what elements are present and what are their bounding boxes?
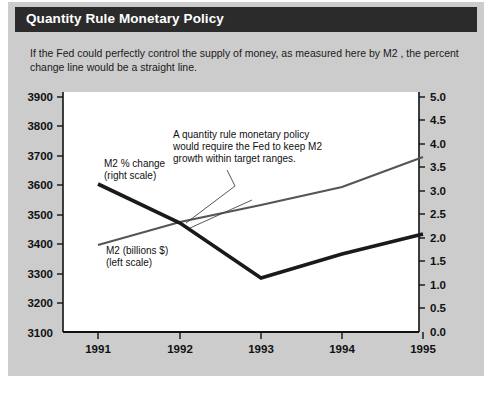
right-tick-label: 1.0 [430,279,446,291]
right-tick-label: 2.5 [430,208,447,220]
x-tick-label: 1992 [167,343,193,355]
x-tick-label: 1995 [410,343,436,355]
figure-panel: Quantity Rule Monetary Policy If the Fed… [8,2,484,376]
left-tick-label: 3300 [27,268,53,280]
x-axis: 1991 1992 1993 1994 1995 [63,332,436,355]
callout-line1: A quantity rule monetary policy [173,129,309,140]
x-tick-label: 1993 [248,343,274,355]
right-tick-label: 3.5 [430,161,447,173]
x-tick-label: 1994 [329,343,355,355]
callout-line3: growth within target ranges. [173,153,296,164]
line-chart: 3900 3800 3700 3600 3500 3400 3300 3200 … [8,2,484,376]
series-label-line1: M2 % change [104,158,166,169]
right-tick-label: 5.0 [430,91,446,103]
left-tick-label: 3400 [27,238,53,250]
series-label-line2: (right scale) [104,170,156,181]
left-tick-label: 3900 [27,91,53,103]
x-tick-label: 1991 [85,343,111,355]
left-tick-label: 3200 [27,297,53,309]
right-tick-label: 4.0 [430,138,446,150]
left-tick-label: 3600 [27,179,53,191]
right-tick-label: 0.0 [430,326,446,338]
left-tick-label: 3800 [27,120,53,132]
callout-line2: would require the Fed to keep M2 [172,141,322,152]
series-label-line2: (left scale) [106,257,152,268]
right-tick-label: 2.0 [430,232,446,244]
left-axis: 3900 3800 3700 3600 3500 3400 3300 3200 … [27,91,63,339]
chart-area: 3900 3800 3700 3600 3500 3400 3300 3200 … [8,2,484,376]
right-axis: 5.0 4.5 4.0 3.5 3.0 2.5 2.0 1.5 1.0 0.5 … [419,91,447,338]
plot-background [63,92,419,332]
right-tick-label: 1.5 [430,255,447,267]
right-tick-label: 4.5 [430,114,447,126]
left-tick-label: 3700 [27,150,53,162]
series-label-line1: M2 (billions $) [106,245,168,256]
left-tick-label: 3100 [27,327,53,339]
right-tick-label: 3.0 [430,185,446,197]
right-tick-label: 0.5 [430,302,447,314]
left-tick-label: 3500 [27,209,53,221]
